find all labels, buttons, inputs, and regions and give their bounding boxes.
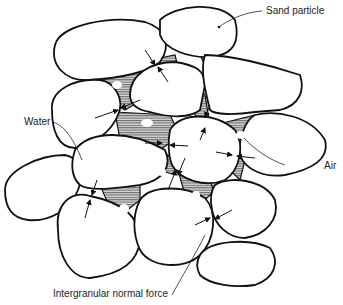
sand-particle bbox=[160, 7, 237, 57]
sand-particle bbox=[211, 180, 276, 238]
sand-particle bbox=[203, 55, 302, 114]
sand-particle bbox=[169, 117, 241, 184]
soil-diagram bbox=[0, 0, 343, 305]
water-label: Water bbox=[24, 116, 50, 127]
intergranular-force-label: Intergranular normal force bbox=[53, 288, 168, 299]
sand-particle bbox=[240, 113, 326, 175]
sand-particle-label: Sand particle bbox=[266, 5, 324, 16]
air-label: Air bbox=[324, 160, 336, 171]
sand-particle bbox=[197, 242, 275, 286]
